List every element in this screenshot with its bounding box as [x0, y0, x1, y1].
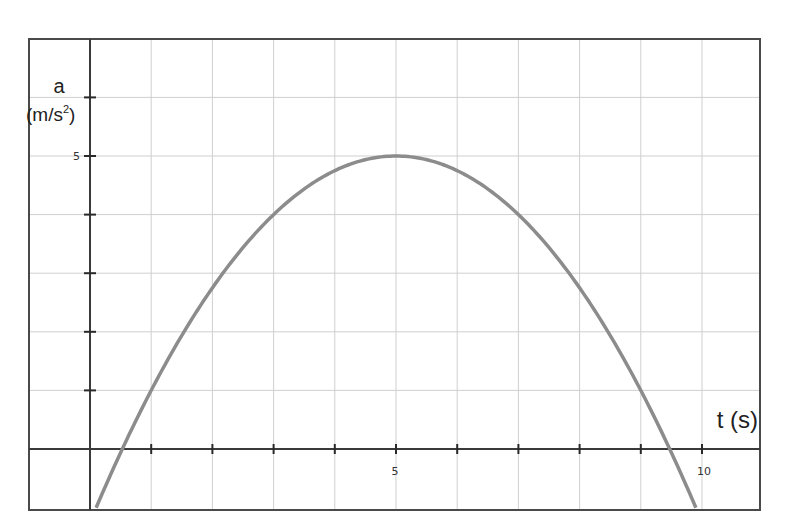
- plot-border: [29, 39, 760, 510]
- gridlines: [29, 39, 760, 510]
- y-units-text: (m/s: [26, 104, 63, 125]
- y-units-close: ): [69, 104, 75, 125]
- acceleration-time-chart: 5 10 5 a (m/s2) t (s): [0, 0, 787, 526]
- axis-ticks: [84, 97, 702, 454]
- x-axis-label: t (s): [717, 406, 758, 433]
- x-tick-label-5: 5: [392, 465, 399, 478]
- y-axis-label-units: (m/s2): [26, 103, 75, 125]
- y-axis-label-variable: a: [53, 75, 65, 97]
- y-tick-label-5: 5: [73, 150, 80, 163]
- x-tick-label-10: 10: [697, 465, 711, 478]
